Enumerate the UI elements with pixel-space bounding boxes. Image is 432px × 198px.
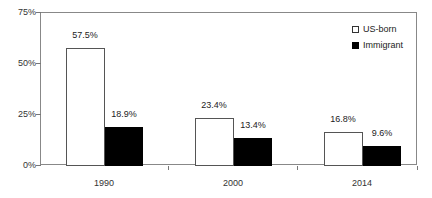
bar-label-immigrant-1990: 18.9% [111,110,137,119]
bar-immigrant-2000 [234,138,272,166]
x-tick-label-1990: 1990 [94,179,114,188]
bar-us-born-1990 [66,48,105,166]
y-tick-label-50: 50% [18,59,36,68]
x-tick-mark-2 [297,166,298,170]
legend: US-born Immigrant [352,22,403,54]
y-tick-label-75: 75% [18,8,36,17]
y-tick-mark-75 [36,12,41,13]
legend-item-us-born: US-born [352,22,403,36]
x-tick-mark-1 [168,166,169,170]
y-tick-label-25: 25% [18,110,36,119]
y-tick-mark-25 [36,114,41,115]
x-tick-label-2000: 2000 [223,179,243,188]
legend-label-us-born: US-born [363,25,397,34]
y-tick-label-0: 0% [23,161,36,170]
bar-label-us-born-2014: 16.8% [330,115,356,124]
bar-label-us-born-1990: 57.5% [72,31,98,40]
bar-us-born-2000 [195,118,234,166]
y-tick-mark-0 [36,165,41,166]
y-tick-mark-50 [36,63,41,64]
bar-label-immigrant-2014: 9.6% [372,129,393,138]
x-tick-mark-3 [417,166,418,170]
bar-immigrant-2014 [363,146,401,166]
bar-label-immigrant-2000: 13.4% [240,121,266,130]
legend-item-immigrant: Immigrant [352,38,403,52]
y-axis: 75% 50% 25% 0% [0,0,36,198]
bar-chart: 75% 50% 25% 0% 57.5% 18.9% 1990 23.4% 13… [0,0,432,198]
bar-label-us-born-2000: 23.4% [201,101,227,110]
legend-swatch-us-born-icon [352,26,359,33]
bar-us-born-2014 [324,132,363,166]
legend-label-immigrant: Immigrant [363,41,403,50]
bar-immigrant-1990 [105,127,143,166]
x-tick-label-2014: 2014 [352,179,372,188]
legend-swatch-immigrant-icon [352,42,359,49]
